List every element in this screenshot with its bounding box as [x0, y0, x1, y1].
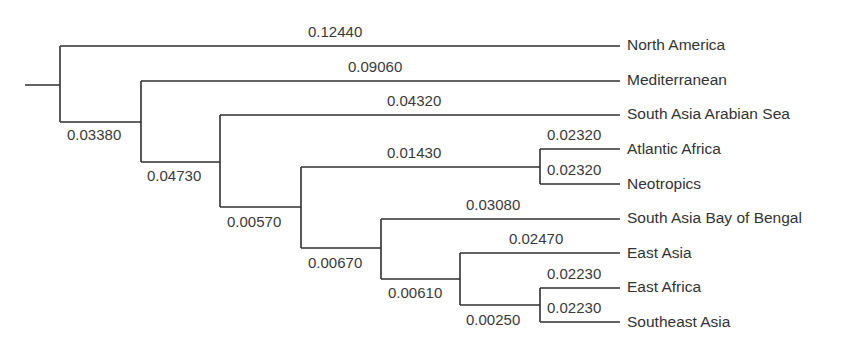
branch-length-label: 0.09060	[348, 58, 402, 75]
branch-length-label: 0.02230	[547, 299, 601, 316]
branch-length-label: 0.04320	[387, 92, 441, 109]
leaf-label-neotropics: Neotropics	[627, 175, 701, 193]
branch-length-label: 0.00670	[308, 254, 362, 271]
leaf-label-southeast-asia: Southeast Asia	[627, 313, 730, 331]
branch-length-label: 0.02230	[547, 265, 601, 282]
branch-length-label: 0.03080	[466, 196, 520, 213]
branch-length-label: 0.01430	[387, 144, 441, 161]
branch-length-label: 0.12440	[308, 23, 362, 40]
branch-length-label: 0.00610	[388, 284, 442, 301]
leaf-label-atlantic-africa: Atlantic Africa	[627, 140, 721, 158]
leaf-label-south-asia-bay-of-bengal: South Asia Bay of Bengal	[627, 209, 802, 227]
leaf-label-south-asia-arabian-sea: South Asia Arabian Sea	[627, 105, 790, 123]
leaf-label-east-africa: East Africa	[627, 278, 701, 296]
branch-length-label: 0.00570	[227, 213, 281, 230]
branch-length-label: 0.03380	[67, 126, 121, 143]
phylogenetic-tree: 0.12440 0.09060 0.04320 0.02320 0.02320 …	[0, 0, 853, 341]
branch-length-label: 0.02320	[547, 126, 601, 143]
leaf-label-mediterranean: Mediterranean	[627, 71, 727, 89]
branch-length-label: 0.00250	[466, 311, 520, 328]
leaf-label-north-america: North America	[627, 36, 725, 54]
branch-length-label: 0.02320	[547, 161, 601, 178]
branch-length-label: 0.02470	[509, 230, 563, 247]
leaf-label-east-asia: East Asia	[627, 244, 692, 262]
branch-length-label: 0.04730	[147, 167, 201, 184]
